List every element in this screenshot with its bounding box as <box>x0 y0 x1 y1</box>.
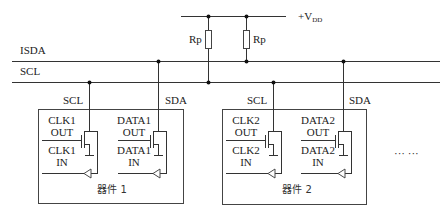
clk1-in-line1: CLK1 <box>48 144 76 156</box>
device1-sda-tap-label: SDA <box>165 94 187 106</box>
junction-dot <box>272 81 276 85</box>
isda-label: ISDA <box>20 44 46 56</box>
continuation-ellipsis: ··· ··· <box>394 147 419 159</box>
data2-out-line1: DATA2 <box>301 114 335 126</box>
device1-name: 器件 1 <box>97 184 127 195</box>
junction-dot <box>245 60 249 64</box>
data2-out-line2: OUT <box>307 126 330 138</box>
clk2-in-line1: CLK2 <box>232 144 260 156</box>
clk2-out-line1: CLK2 <box>232 114 260 126</box>
clk1-in-line2: IN <box>56 156 68 168</box>
clk2-in-line2: IN <box>240 156 252 168</box>
data1-out-line1: DATA1 <box>117 114 151 126</box>
vdd-rail: +VDD <box>181 10 322 24</box>
device2-name: 器件 2 <box>282 184 312 195</box>
device-2: SCL SDA CLK2 OUT CLK2 IN <box>223 60 372 205</box>
junction-dot <box>157 60 161 64</box>
junction-dot <box>207 15 211 19</box>
data1-in-line1: DATA1 <box>117 144 151 156</box>
junction-dot <box>245 15 249 19</box>
junction-dot <box>342 60 346 64</box>
data2-in-line1: DATA2 <box>301 144 335 156</box>
pullup-resistor-2: Rp <box>244 15 267 64</box>
scl-label: SCL <box>20 65 40 77</box>
data2-in-line2: IN <box>312 156 324 168</box>
clk1-out-line2: OUT <box>51 126 74 138</box>
clk2-out-line2: OUT <box>235 126 258 138</box>
device1-scl-tap-label: SCL <box>63 94 83 106</box>
clk1-out-line1: CLK1 <box>48 114 76 126</box>
i2c-circuit-diagram: +VDD ISDA SCL Rp Rp SCL SDA <box>0 0 446 219</box>
device2-scl-tap-label: SCL <box>247 94 267 106</box>
junction-dot <box>88 81 92 85</box>
rp2-label: Rp <box>253 33 266 45</box>
isda-bus: ISDA <box>12 44 440 62</box>
device2-sda-tap-label: SDA <box>349 94 371 106</box>
vdd-label: +VDD <box>298 10 322 24</box>
scl-bus: SCL <box>12 65 440 83</box>
pullup-resistor-1: Rp <box>189 15 212 85</box>
device-1: SCL SDA CLK1 OUT CLK1 IN <box>39 60 188 204</box>
data1-in-line2: IN <box>128 156 140 168</box>
junction-dot <box>207 81 211 85</box>
rp1-label: Rp <box>189 33 202 45</box>
data1-out-line2: OUT <box>123 126 146 138</box>
